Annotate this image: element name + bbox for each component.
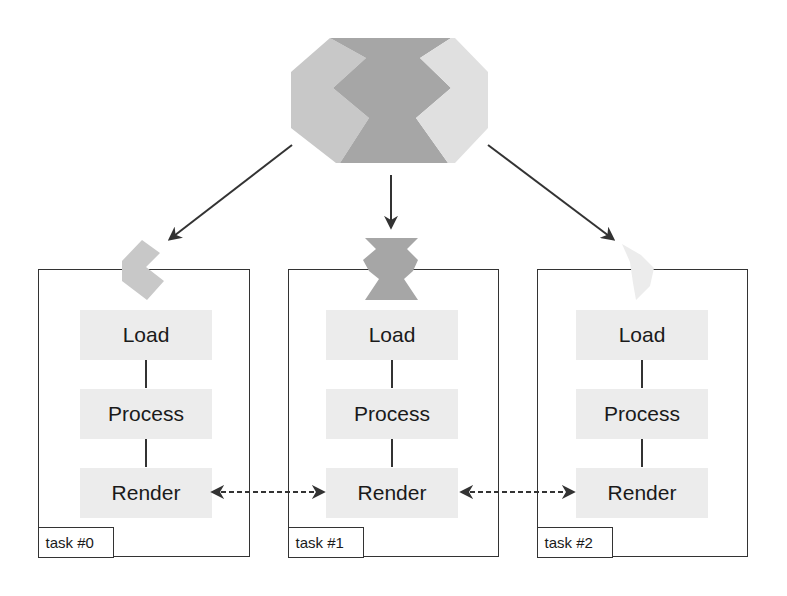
diagram-canvas: Load Process Render task #0 Load Process… [0,0,787,596]
source-shape-icon [291,38,488,163]
diagram-graphics [0,0,787,596]
arrow-to-task-2 [488,145,613,239]
data-piece-left-icon [122,240,164,300]
step-connectors [146,360,642,467]
arrow-to-task-0 [170,145,292,239]
data-piece-right-icon [622,244,654,300]
data-piece-center-icon [363,238,418,300]
